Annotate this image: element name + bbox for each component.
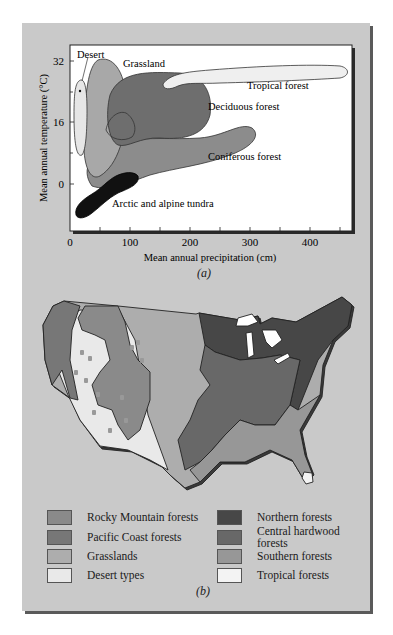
- swatch-desert-types: [47, 568, 72, 583]
- swatch-tropical: [217, 568, 242, 583]
- legend-label: Tropical forests: [257, 569, 329, 581]
- region-tropical-forests: [302, 472, 313, 484]
- legend-label: Northern forests: [257, 511, 332, 523]
- legend-label: Central hardwood forests: [257, 525, 365, 549]
- legend-item-desert-types: Desert types: [47, 567, 144, 583]
- swatch-grasslands: [47, 549, 72, 564]
- caption-b: (b): [196, 584, 210, 599]
- us-forest-map: [0, 0, 393, 500]
- legend-item-tropical: Tropical forests: [217, 567, 329, 583]
- legend-item-central-hardwood: Central hardwood forests: [217, 529, 365, 545]
- swatch-central-hardwood: [217, 530, 242, 545]
- legend-label: Rocky Mountain forests: [87, 511, 198, 523]
- legend-label: Grasslands: [87, 550, 137, 562]
- swatch-rocky-mountain: [47, 510, 72, 525]
- legend-label: Desert types: [87, 569, 144, 581]
- swatch-northern: [217, 510, 242, 525]
- legend-item-grasslands: Grasslands: [47, 548, 137, 564]
- legend-label: Pacific Coast forests: [87, 531, 182, 543]
- legend-label: Southern forests: [257, 550, 332, 562]
- legend-item-pacific-coast: Pacific Coast forests: [47, 529, 182, 545]
- legend-item-northern: Northern forests: [217, 509, 332, 525]
- swatch-pacific-coast: [47, 530, 72, 545]
- swatch-southern: [217, 549, 242, 564]
- legend-item-rocky-mountain: Rocky Mountain forests: [47, 509, 198, 525]
- legend-item-southern: Southern forests: [217, 548, 332, 564]
